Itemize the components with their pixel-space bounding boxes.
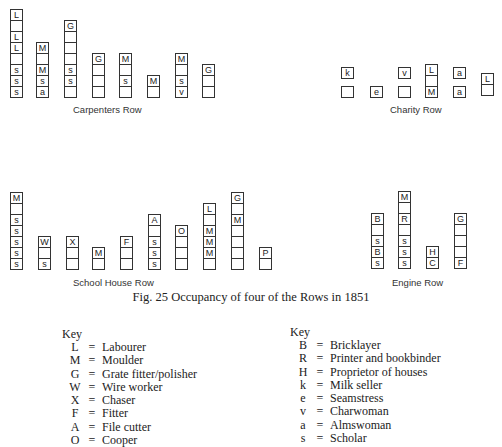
key-code: R: [296, 352, 310, 365]
occupant-box: C: [426, 257, 439, 269]
key-separator: =: [82, 434, 102, 447]
key-description: Scholar: [330, 432, 367, 445]
key-description: Almswoman: [330, 419, 391, 432]
key-item: F=Fitter: [62, 407, 197, 420]
key-code: A: [68, 421, 82, 434]
house-column: MRsss: [398, 191, 411, 269]
empty-box: [120, 258, 133, 270]
key-item: H=Proprietor of houses: [290, 366, 441, 379]
house-column: [398, 86, 411, 98]
occupant-box: k: [341, 67, 354, 79]
key-code: e: [296, 392, 310, 405]
house-column: Ms: [119, 53, 132, 98]
engine-row-label: Engine Row: [392, 277, 443, 288]
charity-row-label: Charity Row: [390, 104, 442, 115]
occupant-box: s: [10, 258, 23, 270]
key-code: G: [68, 368, 82, 381]
occupant-box: v: [398, 67, 411, 79]
occupant-box: s: [148, 258, 161, 270]
key-separator: =: [310, 419, 330, 432]
key-code: F: [68, 407, 82, 420]
house-column: LM: [425, 64, 438, 98]
house-column: L: [481, 73, 494, 96]
empty-box: [259, 258, 272, 270]
key-item: L=Labourer: [62, 341, 197, 354]
occupant-box: v: [175, 86, 188, 98]
empty-box: [202, 86, 215, 98]
house-column: a: [453, 86, 466, 98]
empty-box: [481, 84, 494, 96]
key-code: X: [68, 394, 82, 407]
key-description: Labourer: [102, 341, 146, 354]
key-item: B=Bricklayer: [290, 339, 441, 352]
key-item: s=Scholar: [290, 432, 441, 445]
occupant-box: a: [453, 67, 466, 79]
key-separator: =: [310, 352, 330, 365]
occupant-box: a: [36, 86, 49, 98]
key-separator: =: [82, 368, 102, 381]
key-separator: =: [310, 366, 330, 379]
house-column: G: [92, 53, 105, 98]
house-column: M: [92, 247, 105, 270]
key-separator: =: [310, 432, 330, 445]
occupant-box: s: [38, 258, 51, 270]
key-separator: =: [82, 354, 102, 367]
house-column: Gss: [64, 20, 77, 98]
key-code: W: [68, 381, 82, 394]
key-code: k: [296, 379, 310, 392]
key-item: X=Chaser: [62, 394, 197, 407]
occupant-box: F: [454, 257, 467, 269]
key-description: Grate fitter/polisher: [102, 368, 197, 381]
empty-box: [398, 86, 411, 98]
house-column: LLLsss: [10, 9, 23, 98]
occupant-box: a: [453, 86, 466, 98]
empty-box: [147, 86, 160, 98]
key-left: Key L=LabourerM=MoulderG=Grate fitter/po…: [62, 328, 197, 447]
school-house-row-label: School House Row: [73, 277, 154, 288]
key-separator: =: [310, 339, 330, 352]
house-column: e: [370, 86, 383, 98]
key-description: Fitter: [102, 407, 128, 420]
house-column: HC: [426, 246, 439, 269]
key-code: O: [68, 434, 82, 447]
occupant-box: e: [370, 86, 383, 98]
house-column: X: [66, 236, 79, 270]
house-column: GM: [231, 192, 244, 270]
house-column: a: [453, 67, 466, 79]
key-separator: =: [82, 381, 102, 394]
key-item: v=Charwoman: [290, 405, 441, 418]
key-item: e=Seamstress: [290, 392, 441, 405]
key-description: Cooper: [102, 434, 137, 447]
key-separator: =: [82, 407, 102, 420]
house-column: Msv: [175, 53, 188, 98]
key-separator: =: [310, 392, 330, 405]
house-column: v: [398, 67, 411, 79]
key-separator: =: [82, 394, 102, 407]
key-separator: =: [82, 421, 102, 434]
empty-box: [92, 86, 105, 98]
house-column: Msssss: [10, 192, 23, 270]
key-item: a=Almswoman: [290, 419, 441, 432]
empty-box: [203, 258, 216, 270]
house-column: [341, 86, 354, 98]
house-column: LMMM: [203, 203, 216, 270]
occupant-box: M: [425, 86, 438, 98]
house-column: Ws: [38, 236, 51, 270]
key-item: M=Moulder: [62, 354, 197, 367]
key-item: k=Milk seller: [290, 379, 441, 392]
key-description: Wire worker: [102, 381, 163, 394]
key-item: W=Wire worker: [62, 381, 197, 394]
house-column: MMsa: [36, 42, 49, 98]
occupant-box: s: [10, 86, 23, 98]
house-column: k: [341, 67, 354, 79]
carpenters-row-label: Carpenters Row: [73, 104, 142, 115]
key-code: a: [296, 419, 310, 432]
key-item: R=Printer and bookbinder: [290, 352, 441, 365]
key-separator: =: [310, 379, 330, 392]
figure-caption: Fig. 25 Occupancy of four of the Rows in…: [0, 290, 502, 305]
key-code: v: [296, 405, 310, 418]
key-item: A=File cutter: [62, 421, 197, 434]
house-column: GF: [454, 213, 467, 269]
key-description: Proprietor of houses: [330, 366, 427, 379]
empty-box: [341, 86, 354, 98]
